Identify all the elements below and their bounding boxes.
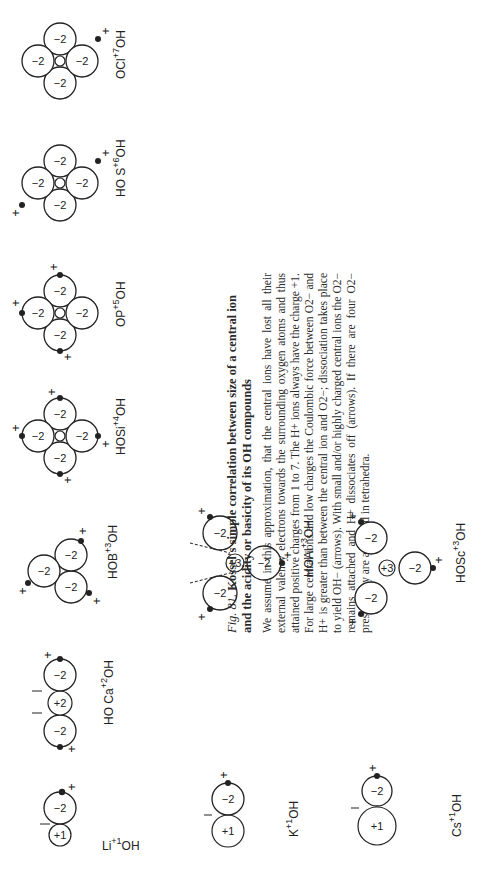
sc-oh3-diagram: −2 −2 −2 +3 + + + <box>335 508 445 628</box>
svg-text:−2: −2 <box>32 55 45 67</box>
formula-b: HOB+3OH <box>104 525 119 579</box>
svg-text:−2: −2 <box>409 562 422 574</box>
caption-title: Fig. 81. Kossel's simple correlation bet… <box>225 273 255 633</box>
molecule-cs-oh: +1 −2 + <box>345 748 419 848</box>
svg-text:+: + <box>366 764 380 771</box>
svg-text:−2: −2 <box>54 77 67 89</box>
svg-text:−2: −2 <box>32 177 45 189</box>
svg-text:+: + <box>16 587 30 594</box>
cs-oh-diagram: +1 −2 + <box>345 748 415 848</box>
cl-oh-diagram: −2 −2 −2 −2 + <box>10 3 110 113</box>
svg-text:−2: −2 <box>222 793 235 805</box>
svg-text:+: + <box>99 149 113 156</box>
molecule-si-oh4: −2 −2 −2 −2 + + + + <box>12 378 116 488</box>
svg-text:−2: −2 <box>54 199 67 211</box>
svg-text:−2: −2 <box>54 725 67 737</box>
molecule-li-oh: +1 −2 + <box>20 763 104 853</box>
molecule-ca-oh2: −2 +2 −2 + + <box>18 633 102 753</box>
svg-text:−2: −2 <box>54 408 67 420</box>
formula-li: Li+1OH <box>102 837 140 852</box>
svg-text:+: + <box>195 507 209 514</box>
li-oh-diagram: +1 −2 + <box>20 763 100 853</box>
k-oh-diagram: +1 −2 + <box>200 753 260 853</box>
svg-text:+: + <box>9 299 23 306</box>
molecule-cl-oh: −2 −2 −2 −2 + <box>10 3 114 113</box>
svg-text:+: + <box>65 783 79 790</box>
svg-text:+1: +1 <box>54 829 67 841</box>
svg-text:+: + <box>61 353 75 360</box>
svg-text:+: + <box>346 618 360 625</box>
svg-text:−2: −2 <box>32 430 45 442</box>
svg-text:+: + <box>217 771 231 778</box>
svg-text:+3: +3 <box>381 562 394 574</box>
svg-text:+: + <box>9 209 23 216</box>
svg-text:+: + <box>41 651 55 658</box>
svg-text:−2: −2 <box>65 581 78 593</box>
formula-sc: HOSc+3OH <box>452 523 467 583</box>
formula-p: OP+5OH <box>112 281 127 327</box>
svg-text:−2: −2 <box>54 452 67 464</box>
svg-text:−2: −2 <box>365 532 378 544</box>
molecule-b-oh3: −2 −2 −2 + + + <box>15 503 109 613</box>
formula-s: HO S+6OH <box>112 139 127 197</box>
svg-text:−2: −2 <box>54 33 67 45</box>
svg-text:−2: −2 <box>54 155 67 167</box>
molecule-sc-oh3: −2 −2 −2 +3 + + + <box>335 508 449 628</box>
svg-text:+: + <box>99 440 113 447</box>
molecule-k-oh: +1 −2 + <box>200 753 264 853</box>
svg-text:+: + <box>65 745 79 752</box>
si-oh4-diagram: −2 −2 −2 −2 + + + + <box>12 378 112 488</box>
formula-cs: Cs+1OH <box>448 794 463 837</box>
svg-text:+: + <box>195 613 209 620</box>
svg-text:+1: +1 <box>371 820 384 832</box>
molecule-p-oh3: −2 −2 −2 −2 + + + <box>10 255 114 365</box>
p-oh3-diagram: −2 −2 −2 −2 + + + <box>10 255 110 365</box>
formula-k: K+1OH <box>285 801 300 837</box>
svg-text:−2: −2 <box>76 55 89 67</box>
svg-text:+: + <box>90 597 104 604</box>
svg-text:−2: −2 <box>76 177 89 189</box>
svg-text:−2: −2 <box>54 285 67 297</box>
svg-text:+: + <box>47 263 61 270</box>
molecule-s-oh2: −2 −2 −2 −2 + + <box>10 125 114 235</box>
svg-text:−2: −2 <box>38 565 51 577</box>
formula-cl: OCl+7OH <box>112 30 127 79</box>
formula-si: HOSi+4OH <box>112 398 127 455</box>
svg-text:−2: −2 <box>54 329 67 341</box>
ca-oh2-diagram: −2 +2 −2 + + <box>18 633 98 753</box>
svg-text:−2: −2 <box>76 430 89 442</box>
b-oh3-diagram: −2 −2 −2 + + + <box>15 503 105 613</box>
svg-text:+: + <box>432 556 446 563</box>
svg-text:+: + <box>99 27 113 34</box>
svg-text:−2: −2 <box>371 785 384 797</box>
svg-text:+: + <box>9 424 23 431</box>
svg-text:−2: −2 <box>76 307 89 319</box>
svg-text:−2: −2 <box>365 592 378 604</box>
svg-text:+1: +1 <box>222 825 235 837</box>
svg-text:−2: −2 <box>65 549 78 561</box>
svg-text:+: + <box>61 476 75 483</box>
svg-text:−2: −2 <box>54 669 67 681</box>
rotated-page: +1 −2 + Li+1OH −2 +2 −2 + + HO Ca+2OH <box>0 0 490 873</box>
s-oh2-diagram: −2 −2 −2 −2 + + <box>10 125 110 235</box>
formula-ca: HO Ca+2OH <box>100 660 115 725</box>
svg-text:−2: −2 <box>54 802 67 814</box>
svg-text:+: + <box>45 388 59 395</box>
svg-text:−2: −2 <box>32 307 45 319</box>
svg-text:+2: +2 <box>54 697 67 709</box>
svg-text:+: + <box>76 527 90 534</box>
svg-text:+: + <box>346 512 360 519</box>
